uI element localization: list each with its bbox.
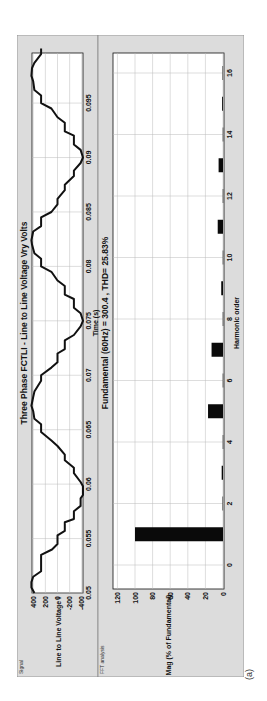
time-plot-title: Three Phase FCTLI - Line to Line Voltage… <box>19 221 29 424</box>
harmonic-tick-label: 8 <box>226 317 233 321</box>
harmonic-bar <box>223 251 224 265</box>
harmonic-tick-label: 2 <box>226 501 233 505</box>
harmonic-tick-label: 4 <box>226 440 233 444</box>
harmonic-bar <box>223 374 224 388</box>
time-tick-label: 0.06 <box>85 477 92 491</box>
voltage-tick-label: 200 <box>42 596 49 608</box>
harmonic-bar <box>222 466 223 480</box>
time-tick-label: 0.085 <box>85 203 92 221</box>
harmonic-tick-label: 12 <box>226 192 233 200</box>
voltage-tick-label: 400 <box>30 596 37 608</box>
harmonic-x-axis-label: Harmonic order <box>233 297 240 349</box>
harmonic-tick-label: 16 <box>226 69 233 77</box>
signal-panel-label: Signal <box>18 660 24 674</box>
harmonic-bar <box>223 189 224 203</box>
magnitude-tick-label: 20 <box>202 592 209 600</box>
voltage-tick-label: -200 <box>66 596 73 610</box>
harmonic-plot: 0246810121416 020406080100120 Fundamenta… <box>100 53 240 675</box>
figure-panel: Signal FFT analysis 0.050.0550.060.0650.… <box>17 35 244 677</box>
harmonic-bar <box>219 158 223 172</box>
time-tick-label: 0.08 <box>85 259 92 273</box>
time-tick-label: 0.05 <box>85 586 92 600</box>
harmonic-bar <box>135 527 223 541</box>
harmonic-tick-label: 6 <box>226 378 233 382</box>
time-x-axis-label: Time (s) <box>92 310 100 337</box>
harmonic-bar <box>223 312 224 326</box>
harmonic-plot-title: Fundamental (60Hz) = 300.4 , THD= 25.83% <box>100 236 110 409</box>
harmonic-bar <box>221 281 223 295</box>
time-tick-label: 0.065 <box>85 421 92 439</box>
harmonic-tick-label: 10 <box>226 254 233 262</box>
time-tick-label: 0.055 <box>85 530 92 548</box>
harmonic-plot-area <box>113 53 224 589</box>
harmonic-bar <box>223 497 224 511</box>
harmonic-bar <box>222 97 223 111</box>
voltage-tick-label: -400 <box>78 596 85 610</box>
harmonic-bar <box>223 66 224 80</box>
figure-caption: (a) <box>244 664 260 680</box>
harmonic-bar <box>212 343 223 357</box>
harmonic-bar <box>218 220 223 234</box>
harmonic-tick-label: 0 <box>226 563 233 567</box>
harmonic-bar <box>208 404 223 418</box>
fft-panel-label: FFT analysis <box>99 645 105 674</box>
figure-canvas: Signal FFT analysis 0.050.0550.060.0650.… <box>17 35 244 677</box>
magnitude-tick-label: 40 <box>184 592 191 600</box>
time-tick-label: 0.095 <box>85 94 92 112</box>
harmonic-bar <box>223 435 224 449</box>
harmonic-tick-label: 14 <box>226 131 233 139</box>
magnitude-tick-label: 100 <box>132 592 139 604</box>
harmonic-y-axis-label: Mag (% of Fundamental) <box>165 595 173 676</box>
magnitude-tick-label: 80 <box>149 592 156 600</box>
time-y-axis-label: Line to Line Voltage i <box>55 597 63 667</box>
time-tick-label: 0.07 <box>85 368 92 382</box>
magnitude-tick-label: 120 <box>114 592 121 604</box>
harmonic-bar <box>223 128 224 142</box>
time-tick-label: 0.09 <box>85 151 92 165</box>
time-tick-label: 0.075 <box>85 312 92 330</box>
magnitude-tick-label: 0 <box>220 592 227 596</box>
